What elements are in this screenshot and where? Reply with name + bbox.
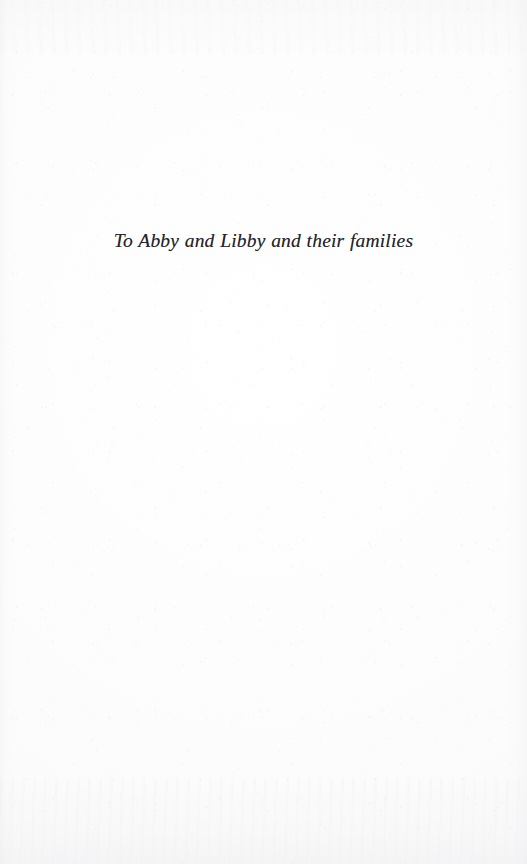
paper-tone-overlay xyxy=(0,0,527,864)
book-page: To Abby and Libby and their families xyxy=(0,0,527,864)
page-right-edge-shading xyxy=(505,0,527,864)
page-left-edge-shading xyxy=(0,0,16,864)
dedication-block: To Abby and Libby and their families xyxy=(0,229,527,253)
page-bottom-edge-shading xyxy=(0,778,527,864)
paper-grain-texture xyxy=(0,0,527,864)
page-top-edge-shading xyxy=(0,0,527,54)
dedication-text: To Abby and Libby and their families xyxy=(114,229,413,253)
